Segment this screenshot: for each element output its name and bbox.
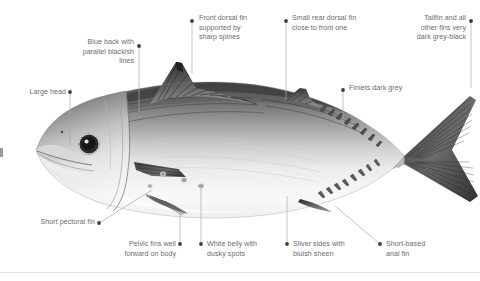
- leader-dot-tailfin-dark-grey-black: [469, 19, 473, 23]
- callout-label-blue-back-parallel-lines: Blue back with parallel blackish lines: [58, 38, 134, 67]
- leader-dot-silver-sides-bluish-sheen: [285, 242, 289, 246]
- footer-divider: [0, 272, 480, 273]
- leader-dot-large-head: [68, 90, 72, 94]
- fish-eye: [78, 133, 100, 155]
- callout-label-front-dorsal-fin: Front dorsal fin supported by sharp spin…: [199, 14, 279, 43]
- callout-label-white-belly-dusky-spots: White belly with dusky spots: [207, 240, 277, 259]
- leader-dot-blue-back-parallel-lines: [137, 44, 141, 48]
- leader-dot-pelvic-fins-forward: [178, 242, 182, 246]
- callout-label-silver-sides-bluish-sheen: Silver sides with bluish sheen: [293, 240, 363, 259]
- callout-label-short-based-anal-fin: Short-based anal fin: [386, 240, 446, 259]
- leader-dot-short-pectoral-fin: [97, 221, 101, 225]
- leader-dot-finlets-dark-grey: [341, 88, 345, 92]
- callout-label-small-rear-dorsal-fin: Small rear dorsal fin close to front one: [292, 14, 386, 33]
- callout-label-pelvic-fins-forward: Pelvic fins well forward on body: [110, 240, 176, 259]
- callout-label-large-head: Large head: [8, 88, 66, 98]
- callout-label-finlets-dark-grey: Finlets dark grey: [349, 84, 425, 94]
- callout-label-short-pectoral-fin: Short pectoral fin: [18, 218, 95, 228]
- leader-dot-front-dorsal-fin: [190, 19, 194, 23]
- leader-dot-white-belly-dusky-spots: [199, 242, 203, 246]
- left-edge-mark: [0, 148, 3, 157]
- tail-fin: [395, 96, 478, 202]
- leader-dot-small-rear-dorsal-fin: [284, 19, 288, 23]
- leader-dot-short-based-anal-fin: [378, 242, 382, 246]
- leader-line-short-based-anal-fin: [335, 206, 380, 244]
- callout-label-tailfin-dark-grey-black: Tailfin and all other fins very dark gre…: [393, 14, 466, 43]
